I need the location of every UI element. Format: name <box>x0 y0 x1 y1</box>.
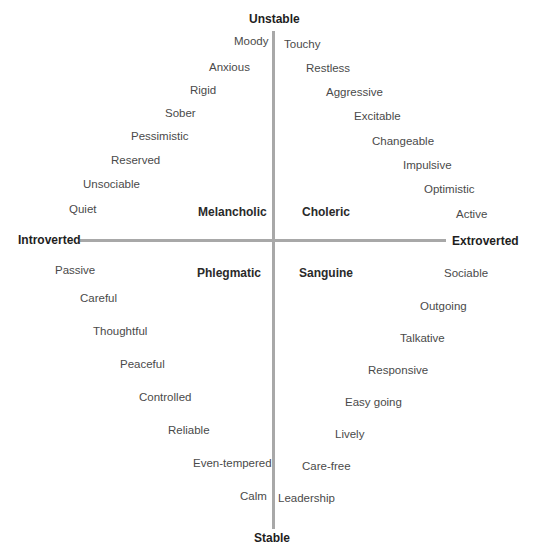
extraversion-axis-line <box>80 239 446 242</box>
temperament-diagram: Unstable Stable Introverted Extroverted … <box>0 0 539 549</box>
trait-label-phlegmatic: Even-tempered <box>193 456 272 470</box>
trait-label-melancholic: Quiet <box>69 202 97 216</box>
quadrant-label-phlegmatic: Phlegmatic <box>197 266 261 280</box>
trait-label-melancholic: Moody <box>234 34 269 48</box>
axis-label-introverted: Introverted <box>18 233 81 247</box>
trait-label-sanguine: Easy going <box>345 395 402 409</box>
quadrant-label-choleric: Choleric <box>302 205 350 219</box>
trait-label-choleric: Touchy <box>284 37 320 51</box>
quadrant-label-sanguine: Sanguine <box>299 266 353 280</box>
trait-label-sanguine: Lively <box>335 427 364 441</box>
trait-label-melancholic: Pessimistic <box>131 129 189 143</box>
trait-label-melancholic: Rigid <box>190 83 216 97</box>
trait-label-sanguine: Care-free <box>302 459 351 473</box>
trait-label-phlegmatic: Thoughtful <box>93 324 147 338</box>
trait-label-sanguine: Leadership <box>278 491 335 505</box>
trait-label-phlegmatic: Calm <box>240 489 267 503</box>
trait-label-phlegmatic: Controlled <box>139 390 191 404</box>
trait-label-phlegmatic: Careful <box>80 291 117 305</box>
axis-label-stable: Stable <box>254 531 290 545</box>
trait-label-phlegmatic: Peaceful <box>120 357 165 371</box>
trait-label-sanguine: Sociable <box>444 266 488 280</box>
trait-label-choleric: Aggressive <box>326 85 383 99</box>
trait-label-choleric: Optimistic <box>424 182 474 196</box>
trait-label-choleric: Active <box>456 207 487 221</box>
trait-label-melancholic: Reserved <box>111 153 160 167</box>
trait-label-choleric: Changeable <box>372 134 434 148</box>
trait-label-phlegmatic: Reliable <box>168 423 210 437</box>
trait-label-sanguine: Responsive <box>368 363 428 377</box>
trait-label-choleric: Restless <box>306 61 350 75</box>
axis-label-extroverted: Extroverted <box>452 234 519 248</box>
axis-label-unstable: Unstable <box>249 12 300 26</box>
trait-label-choleric: Impulsive <box>403 158 452 172</box>
trait-label-melancholic: Unsociable <box>83 177 140 191</box>
stability-axis-line <box>272 31 275 529</box>
trait-label-phlegmatic: Passive <box>55 263 95 277</box>
trait-label-choleric: Excitable <box>354 109 401 123</box>
trait-label-sanguine: Outgoing <box>420 299 467 313</box>
quadrant-label-melancholic: Melancholic <box>198 205 267 219</box>
trait-label-melancholic: Anxious <box>209 60 250 74</box>
trait-label-melancholic: Sober <box>165 106 196 120</box>
trait-label-sanguine: Talkative <box>400 331 445 345</box>
